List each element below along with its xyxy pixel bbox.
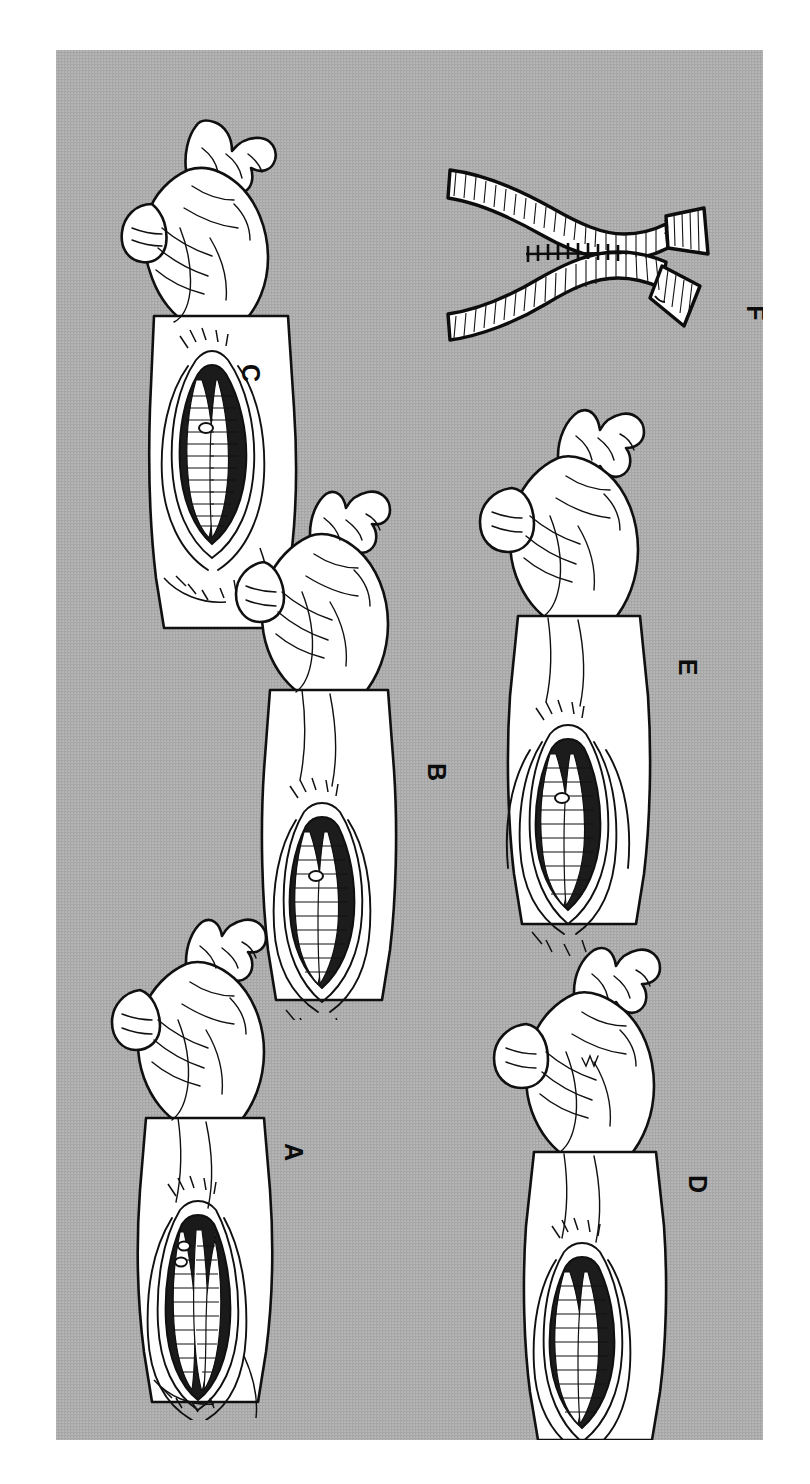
panel-e: E bbox=[446, 400, 686, 960]
panel-label-a: A bbox=[280, 1139, 306, 1165]
panel-f: F bbox=[442, 150, 742, 360]
panel-label-c: C bbox=[237, 360, 263, 386]
panel-label-e: E bbox=[674, 654, 700, 680]
panel-label-d: D bbox=[684, 1171, 710, 1197]
panel-a: A bbox=[84, 910, 314, 1420]
panel-f-illustration bbox=[442, 150, 742, 360]
panel-d-illustration bbox=[456, 940, 701, 1440]
figure-plate: F bbox=[56, 50, 763, 1440]
panel-d: D bbox=[456, 940, 701, 1440]
panel-label-f: F bbox=[742, 300, 763, 326]
panel-e-illustration bbox=[446, 400, 686, 960]
panel-a-illustration bbox=[84, 910, 314, 1420]
figure-page: F bbox=[0, 0, 810, 1484]
